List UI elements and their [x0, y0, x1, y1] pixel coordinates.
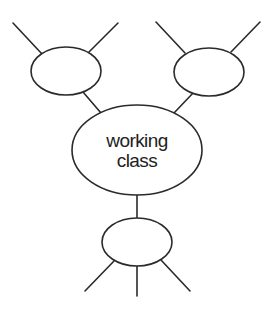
edge-top-left-outer-left — [13, 23, 42, 54]
edge-top-left-to-center — [83, 92, 101, 113]
node-top-left — [31, 47, 101, 95]
edge-bottom-outer-right — [161, 260, 190, 291]
edge-top-right-to-center — [174, 92, 194, 113]
edge-bottom-outer-left — [85, 261, 114, 291]
center-label-line-2: class — [117, 150, 157, 171]
node-bottom — [102, 218, 172, 266]
node-top-right — [174, 48, 244, 96]
center-label-line-1: working — [105, 130, 167, 151]
diagram-canvas: working class — [0, 0, 266, 311]
edge-top-right-outer-right — [231, 22, 260, 52]
edge-top-left-outer-right — [88, 23, 118, 53]
network-diagram: working class — [0, 0, 266, 311]
edge-top-right-outer-left — [156, 22, 185, 53]
